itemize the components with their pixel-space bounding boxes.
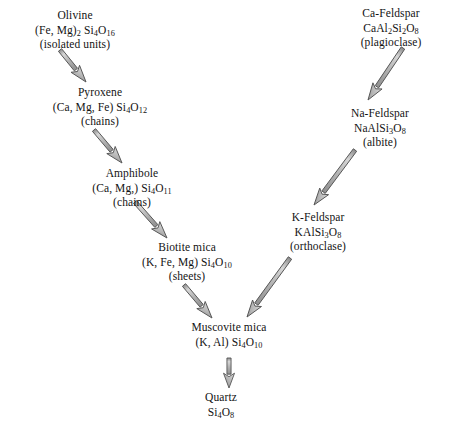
arrow-head	[107, 146, 126, 166]
node-biotite-mica-structure: (sheets)	[0, 269, 416, 284]
node-ca-feldspar-formula: CaAl2Si2O8	[163, 21, 457, 36]
node-ca-feldspar-structure: (plagioclase)	[163, 35, 457, 50]
node-quartz: Quartz Si4O8	[0, 390, 450, 419]
node-quartz-name: Quartz	[0, 390, 450, 405]
node-ca-feldspar-name: Ca-Feldspar	[163, 6, 457, 21]
arrow-ca-feldspar-to-na-feldspar	[363, 45, 407, 103]
node-muscovite-mica-name: Muscovite mica	[1, 320, 457, 335]
node-na-feldspar: Na-Feldspar NaAlSi3O8 (albite)	[152, 106, 457, 150]
arrow-biotite-to-muscovite	[180, 281, 216, 321]
arrow-shaft	[375, 47, 404, 88]
node-na-feldspar-name: Na-Feldspar	[152, 106, 457, 121]
node-amphibole-structure: (chains)	[0, 195, 361, 210]
node-quartz-formula: Si4O8	[0, 405, 450, 420]
arrow-shaft	[227, 358, 231, 374]
node-amphibole-name: Amphibole	[0, 166, 361, 181]
node-amphibole-formula: (Ca, Mg,) Si4O11	[0, 181, 361, 196]
node-ca-feldspar: Ca-Feldspar CaAl2Si2O8 (plagioclase)	[163, 6, 457, 50]
arrow-head	[363, 83, 382, 103]
arrow-pyroxene-to-amphibole	[90, 126, 126, 166]
node-pyroxene-name: Pyroxene	[0, 85, 329, 100]
arrow-head	[243, 300, 262, 320]
node-muscovite-mica-formula: (K, Al) Si4O10	[1, 335, 457, 350]
arrow-muscovite-to-quartz	[224, 358, 235, 388]
node-k-feldspar: K-Feldspar KAlSi3O8 (orthoclase)	[90, 210, 457, 254]
node-k-feldspar-structure: (orthoclase)	[90, 239, 457, 254]
node-k-feldspar-name: K-Feldspar	[90, 210, 457, 225]
node-biotite-mica-formula: (K, Fe, Mg) Si4O10	[0, 255, 416, 270]
arrow-shaft	[92, 129, 113, 152]
arrow-olivine-to-pyroxene	[56, 47, 91, 86]
bowens-reaction-series-diagram: Olivine (Fe, Mg)2 Si4O16 (isolated units…	[0, 0, 457, 422]
node-na-feldspar-structure: (albite)	[152, 135, 457, 150]
node-amphibole: Amphibole (Ca, Mg,) Si4O11 (chains)	[0, 166, 361, 210]
arrow-head	[224, 373, 235, 388]
node-k-feldspar-formula: KAlSi3O8	[90, 225, 457, 240]
arrow-head	[71, 65, 90, 85]
arrow-shaft	[182, 284, 203, 307]
node-muscovite-mica: Muscovite mica (K, Al) Si4O10	[1, 320, 457, 349]
node-na-feldspar-formula: NaAlSi3O8	[152, 121, 457, 136]
arrow-head	[197, 301, 216, 321]
